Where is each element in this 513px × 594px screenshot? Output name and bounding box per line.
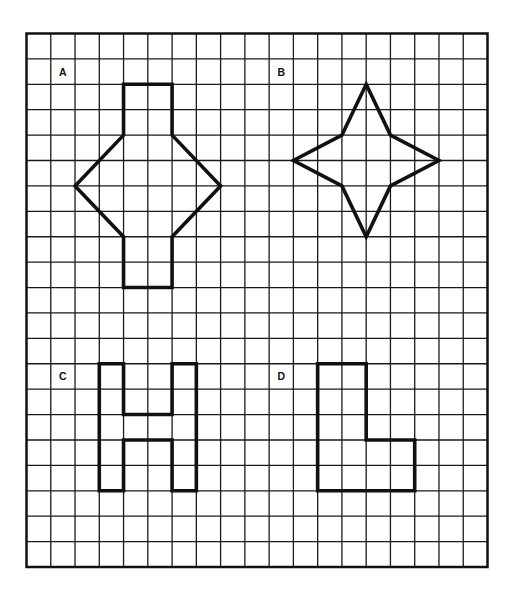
grid-border: [27, 34, 488, 568]
grid-diagram: ABCD: [0, 0, 513, 594]
figure-label-a: A: [59, 66, 67, 78]
figure-label-c: C: [59, 370, 67, 382]
figure-label-d: D: [277, 370, 285, 382]
figure-label-b: B: [277, 66, 285, 78]
grid-lines: [27, 34, 488, 568]
